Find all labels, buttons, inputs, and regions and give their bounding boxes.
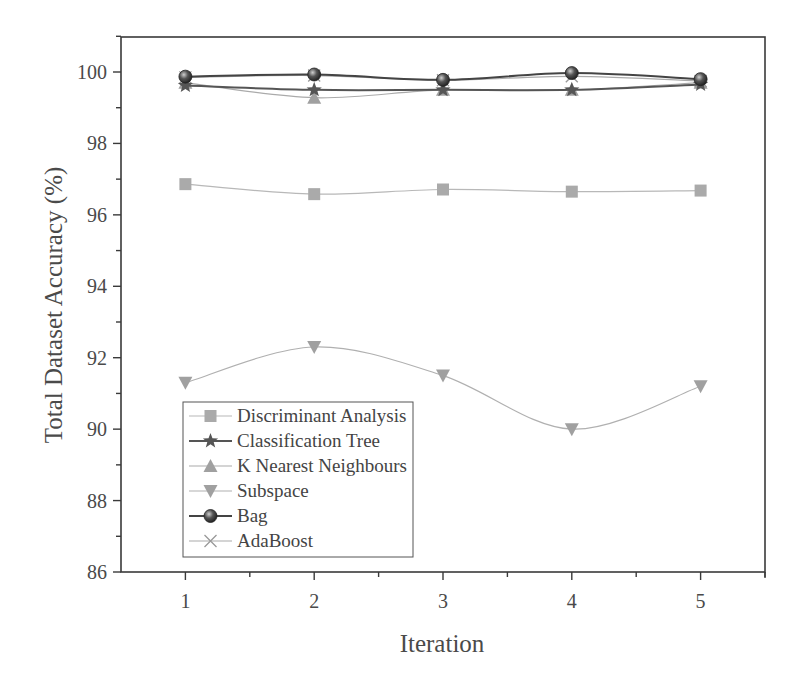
y-tick-label: 88 — [87, 490, 107, 512]
x-tick-label: 3 — [438, 590, 448, 612]
legend-square-icon — [205, 410, 217, 422]
legend-sphere-icon — [204, 510, 217, 523]
legend: Discriminant AnalysisClassification Tree… — [183, 402, 413, 557]
data-point-sphere-icon — [179, 70, 192, 83]
legend-label: Discriminant Analysis — [237, 405, 406, 426]
y-tick-label: 94 — [87, 275, 107, 297]
series-discriminant-analysis — [179, 178, 706, 200]
data-point-square-icon — [308, 188, 320, 200]
data-point-triangle-down-icon — [178, 377, 192, 390]
y-tick-label: 98 — [87, 132, 107, 154]
data-point-sphere-icon — [565, 67, 578, 80]
data-point-sphere-icon — [694, 73, 707, 86]
y-tick-label: 90 — [87, 418, 107, 440]
data-point-square-icon — [179, 178, 191, 190]
legend-label: AdaBoost — [237, 530, 314, 551]
legend-label: Subspace — [237, 480, 309, 501]
x-tick-label: 1 — [180, 590, 190, 612]
data-point-triangle-down-icon — [694, 380, 708, 393]
data-point-triangle-down-icon — [436, 370, 450, 383]
y-tick-label: 96 — [87, 204, 107, 226]
data-point-square-icon — [566, 186, 578, 198]
y-tick-label: 92 — [87, 347, 107, 369]
data-point-sphere-icon — [437, 73, 450, 86]
legend-label: Bag — [237, 505, 268, 526]
x-tick-label: 4 — [567, 590, 577, 612]
y-tick-label: 86 — [87, 561, 107, 583]
data-point-sphere-icon — [308, 68, 321, 81]
y-axis-title: Total Dataset Accuracy (%) — [40, 167, 68, 444]
legend-label: Classification Tree — [237, 430, 380, 451]
series-layer — [178, 67, 708, 437]
x-axis-title: Iteration — [400, 630, 485, 657]
data-point-square-icon — [437, 184, 449, 196]
x-tick-label: 5 — [696, 590, 706, 612]
y-axis: 86889092949698100 — [77, 36, 121, 583]
x-axis: 12345 — [180, 572, 765, 612]
legend-label: K Nearest Neighbours — [237, 455, 407, 476]
y-tick-label: 100 — [77, 61, 107, 83]
line-chart: 86889092949698100 12345 Total Dataset Ac… — [0, 0, 803, 687]
data-point-square-icon — [695, 185, 707, 197]
x-tick-label: 2 — [309, 590, 319, 612]
